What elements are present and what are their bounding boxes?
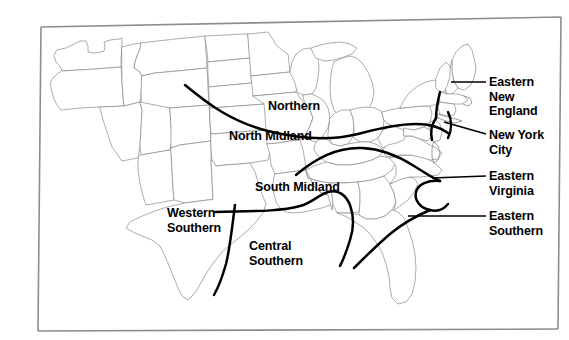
label-northern: Northern xyxy=(268,99,320,114)
label-eastern-virginia: Eastern Virginia xyxy=(489,169,534,198)
label-eastern-southern: Eastern Southern xyxy=(489,209,543,238)
label-western-southern: Western Southern xyxy=(167,206,221,235)
leader-eastern-virginia xyxy=(432,176,486,178)
label-new-york-city: New York City xyxy=(489,128,544,157)
boundary-eastern-southern xyxy=(354,210,430,268)
label-central-southern: Central Southern xyxy=(249,239,303,268)
boundary-north-midland-south-midland xyxy=(296,148,440,181)
label-south-midland: South Midland xyxy=(255,180,340,195)
dialect-map-figure: Northern North Midland South Midland Wes… xyxy=(0,0,569,340)
boundary-eastern-new-england xyxy=(436,92,440,118)
boundary-eastern-virginia-loop xyxy=(416,181,448,211)
label-north-midland: North Midland xyxy=(229,129,312,144)
label-eastern-new-england: Eastern New England xyxy=(489,75,538,119)
dialect-boundaries-and-leaders xyxy=(0,0,569,340)
